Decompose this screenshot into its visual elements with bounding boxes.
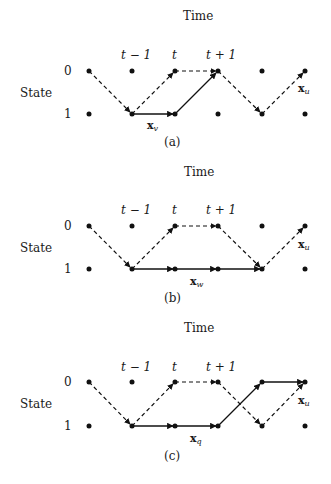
dashed-path-xu (89, 382, 303, 426)
trellis-nodes (87, 380, 308, 429)
trellis-c (0, 0, 331, 484)
panel-c: Time t − 1 t t + 1 0 1 State xq xu (c) (0, 0, 331, 484)
solid-path-xq (132, 382, 303, 426)
